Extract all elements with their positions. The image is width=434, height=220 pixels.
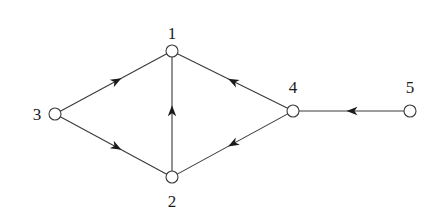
edge-3-to-2 [60, 117, 166, 174]
directed-graph-diagram: 12345 [0, 0, 434, 220]
arrowhead-4-to-2-icon [228, 137, 240, 146]
arrowhead-3-to-1-icon [110, 78, 122, 87]
node-5 [404, 105, 416, 117]
edges-group [60, 54, 404, 174]
arrowheads-group [110, 78, 358, 150]
arrowhead-4-to-1-icon [228, 79, 240, 88]
node-labels-group: 12345 [33, 24, 415, 211]
node-label-3: 3 [33, 105, 42, 124]
node-label-1: 1 [168, 24, 177, 43]
node-2 [166, 171, 178, 183]
node-3 [49, 108, 61, 120]
node-1 [166, 45, 178, 57]
edge-3-to-1 [60, 54, 166, 111]
node-4 [287, 105, 299, 117]
node-label-2: 2 [168, 192, 177, 211]
node-label-4: 4 [289, 78, 298, 97]
nodes-group [49, 45, 416, 183]
node-label-5: 5 [406, 78, 415, 97]
arrowhead-3-to-2-icon [110, 141, 122, 150]
